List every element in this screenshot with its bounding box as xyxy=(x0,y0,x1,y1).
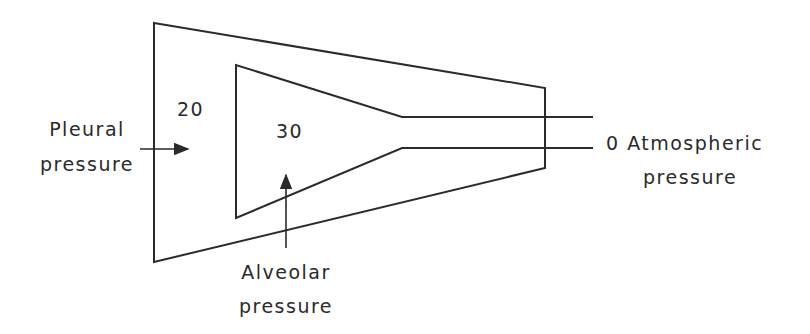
pleural-label-line1: Pleural xyxy=(32,114,142,144)
alveolar-label-line1: Alveolar xyxy=(230,257,342,287)
atmospheric-label-line2: pressure xyxy=(643,162,737,192)
alveolar-label-line2: pressure xyxy=(230,291,342,321)
alveolar-value: 30 xyxy=(276,116,303,146)
pleural-space-outline xyxy=(154,23,545,262)
pleural-label-line2: pressure xyxy=(28,149,146,179)
pleural-value: 20 xyxy=(177,94,204,124)
atmospheric-label-line1: 0 Atmospheric xyxy=(606,128,763,158)
